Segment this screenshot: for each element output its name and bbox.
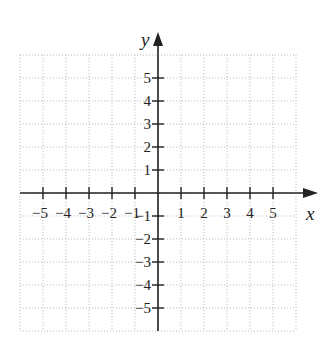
y-axis-label: y xyxy=(139,29,150,50)
y-tick-label: 1 xyxy=(144,162,152,178)
x-tick-label: 4 xyxy=(246,205,254,221)
x-tick-label: −2 xyxy=(101,205,117,221)
y-tick-label: −5 xyxy=(135,300,151,316)
y-tick-label: 3 xyxy=(144,116,152,132)
x-tick-label: −5 xyxy=(32,205,48,221)
y-tick-label: 2 xyxy=(144,139,152,155)
y-tick-label: −3 xyxy=(135,254,151,270)
x-tick-label: 3 xyxy=(223,205,231,221)
y-tick-label: 4 xyxy=(144,93,152,109)
y-tick-label: −1 xyxy=(135,208,151,224)
y-tick-label: 5 xyxy=(144,70,152,86)
x-tick-label: −3 xyxy=(78,205,94,221)
x-axis-arrow-icon xyxy=(303,188,318,198)
x-tick-label: −4 xyxy=(55,205,71,221)
y-tick-label: −4 xyxy=(135,277,151,293)
y-axis-arrow-icon xyxy=(153,32,163,46)
x-axis-label: x xyxy=(305,203,315,224)
x-tick-label: 5 xyxy=(269,205,277,221)
x-tick-label: 1 xyxy=(177,205,185,221)
x-tick-label: 2 xyxy=(200,205,208,221)
coordinate-plane: −5−4−3−2−112345 54321−1−2−3−4−5 x y xyxy=(0,0,328,347)
y-tick-label: −2 xyxy=(135,231,151,247)
